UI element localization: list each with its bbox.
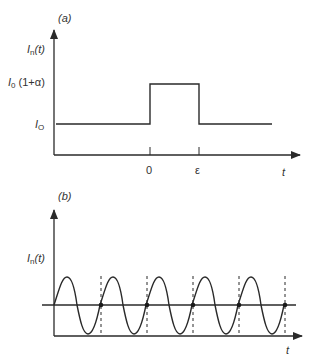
panel-b: (b) In(t) t	[27, 190, 302, 356]
x-label-a: t	[282, 166, 286, 178]
level-high-label: I0 (1+α)	[8, 76, 45, 90]
y-label-a: In(t)	[27, 43, 45, 57]
panel-b-label: (b)	[58, 190, 72, 202]
pulse-waveform	[56, 84, 272, 124]
panel-a-label: (a)	[58, 12, 72, 24]
y-label-b: In(t)	[27, 252, 45, 266]
tick-eps-label: ε	[195, 164, 200, 176]
diagram-svg: (a) 0 ε t In(t) I0 (1+α) IO (b)	[0, 0, 314, 364]
tick-0-label: 0	[146, 164, 152, 176]
level-low-label: IO	[35, 118, 44, 132]
figure: (a) 0 ε t In(t) I0 (1+α) IO (b)	[0, 0, 314, 364]
panel-a: (a) 0 ε t In(t) I0 (1+α) IO	[8, 12, 300, 178]
x-label-b: t	[286, 344, 290, 356]
